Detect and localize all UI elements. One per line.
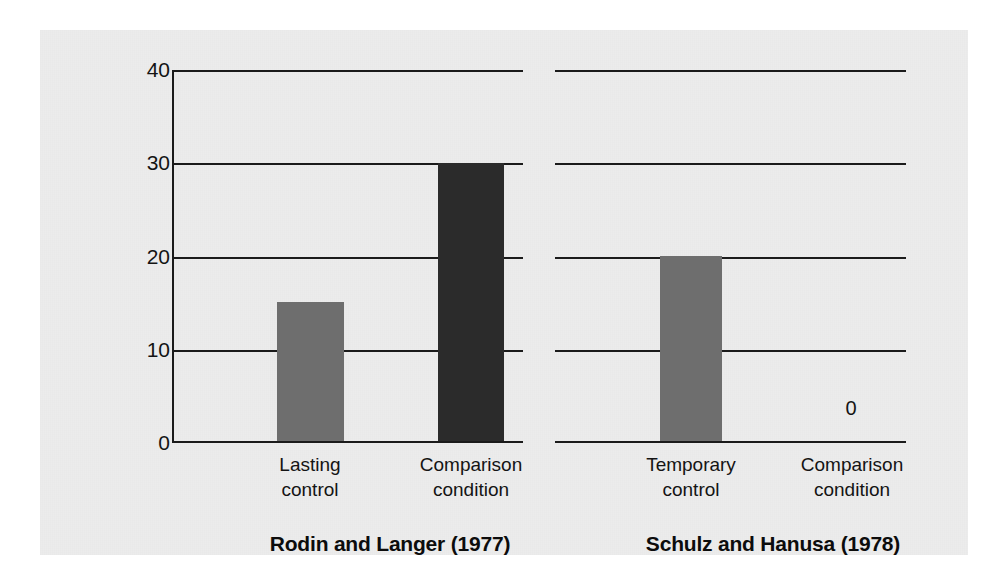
bar-comparison-condition-left: [438, 163, 504, 441]
bar-lasting-control: [277, 302, 344, 441]
category-label-line-1: Temporary: [646, 453, 736, 478]
gridline-0-right: [555, 441, 906, 443]
y-tick-20: 20: [124, 245, 170, 269]
category-label-lasting-control: Lasting control: [279, 453, 340, 502]
gridline-10-right: [555, 350, 906, 352]
category-label-line-2: condition: [420, 478, 522, 503]
category-label-line-1: Lasting: [279, 453, 340, 478]
category-label-line-1: Comparison: [420, 453, 522, 478]
value-label-comparison-condition-right: 0: [845, 397, 856, 420]
y-tick-10: 10: [124, 338, 170, 362]
bar-temporary-control: [660, 256, 722, 442]
y-axis-tick-labels: 40 30 20 10 0: [124, 30, 170, 555]
gridline-30-right: [555, 163, 906, 165]
category-label-line-2: control: [279, 478, 340, 503]
gridline-20-right: [555, 257, 906, 259]
figure-card: Percentage of residents who had died at …: [40, 30, 968, 555]
y-tick-30: 30: [124, 151, 170, 175]
y-tick-40: 40: [124, 58, 170, 82]
category-label-temporary-control: Temporary control: [646, 453, 736, 502]
gridline-40-left: [172, 70, 523, 72]
panel-caption-rodin-langer: Rodin and Langer (1977): [270, 532, 510, 556]
category-label-comparison-condition-left: Comparison condition: [420, 453, 522, 502]
panel-caption-schulz-hanusa: Schulz and Hanusa (1978): [646, 532, 900, 556]
category-label-comparison-condition-right: Comparison condition: [801, 453, 903, 502]
gridline-40-right: [555, 70, 906, 72]
category-label-line-2: control: [646, 478, 736, 503]
plot-panel-rodin-langer: Lasting control Comparison condition Rod…: [172, 70, 523, 443]
category-label-line-2: condition: [801, 478, 903, 503]
category-label-line-1: Comparison: [801, 453, 903, 478]
gridline-0-left: [172, 441, 523, 443]
y-tick-0: 0: [124, 431, 170, 455]
plot-panel-schulz-hanusa: 0 Temporary control Comparison condition…: [555, 70, 906, 443]
